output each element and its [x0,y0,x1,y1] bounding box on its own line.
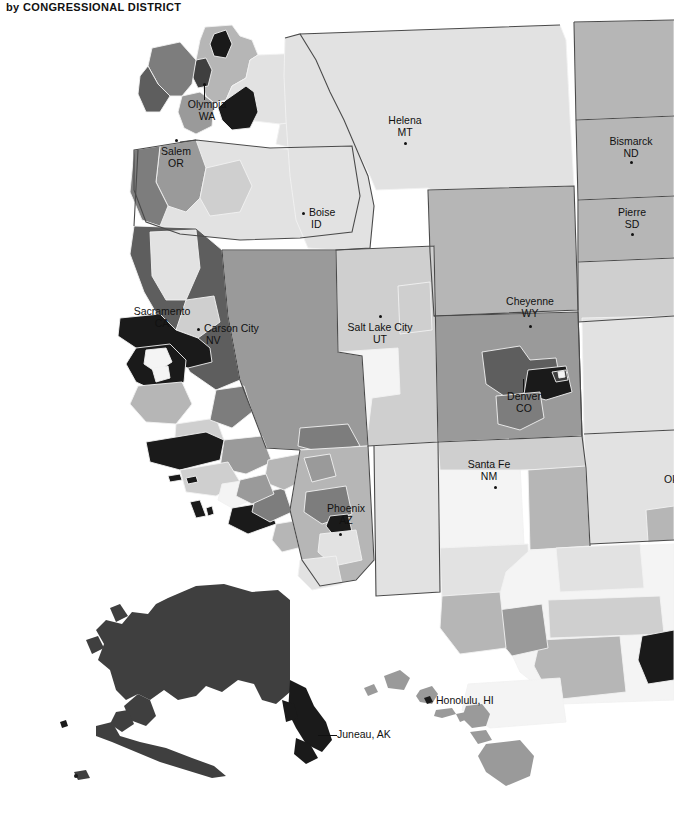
state-oklahoma [584,430,674,544]
city-dot-phoenix [339,533,342,536]
city-dot-salt-lake-city [379,315,382,318]
choropleth-map[interactable]: .c1{fill:#f4f4f4}.c2{fill:#e2e2e2}.c3{fi… [0,0,674,824]
state-wyoming [428,186,578,316]
city-dot-salem [175,139,178,142]
city-dot-santa-fe [494,486,497,489]
state-kansas [582,316,674,434]
leader-juneau [318,735,337,736]
city-dot-bismarck [630,161,633,164]
leader-olympia [204,85,205,100]
map-svg: .c1{fill:#f4f4f4}.c2{fill:#e2e2e2}.c3{fi… [0,0,674,824]
city-dot-carson-city [197,328,200,331]
state-arizona [290,446,374,590]
city-dot-boise [302,212,305,215]
city-dot-helena [404,142,407,145]
page-title-text: by CONGRESSIONAL DISTRICT [6,1,181,13]
leader-denver [523,379,524,392]
city-dot-pierre [631,233,634,236]
city-dot-cheyenne [529,325,532,328]
city-dot-olympia [203,83,206,86]
state-nebraska [578,258,674,322]
state-south-dakota [576,116,674,262]
page-title: by CONGRESSIONAL DISTRICT [6,1,181,13]
state-colorado [434,312,582,442]
state-north-dakota [574,20,674,120]
